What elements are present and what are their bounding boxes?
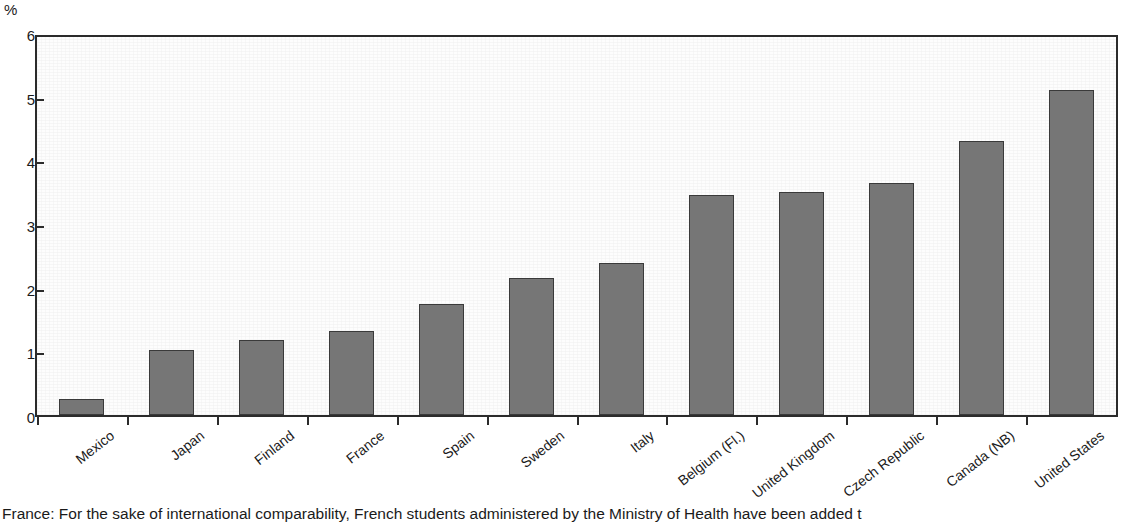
y-tick-mark-1 [35,353,44,355]
x-axis-label-spain: Spain [440,428,477,462]
y-tick-label-5: 5 [9,92,35,107]
y-tick-mark-5 [35,99,44,101]
x-axis-label-belgium-fl: Belgium (Fl.) [675,428,747,489]
x-axis-category-labels: MexicoJapanFinlandFranceSpainSwedenItaly… [0,424,1137,496]
bar-sweden [509,278,554,415]
y-tick-label-3: 3 [9,219,35,234]
x-axis-label-czech-republic: Czech Republic [840,428,927,500]
bar-belgium-fl [689,195,734,416]
x-axis-label-mexico: Mexico [73,428,117,467]
y-tick-mark-4 [35,162,44,164]
y-tick-label-2: 2 [9,283,35,298]
y-tick-label-0: 0 [9,410,35,425]
x-axis-label-finland: Finland [252,428,297,468]
x-axis-label-sweden: Sweden [518,428,567,471]
x-axis-label-united-states: United States [1031,428,1106,492]
bar-united-kingdom [779,192,824,415]
x-axis-label-japan: Japan [168,428,207,463]
bar-czech-republic [869,183,914,415]
chart-footnote: France: For the sake of international co… [2,504,1137,523]
bar-france [329,331,374,415]
bar-mexico [59,399,104,415]
bar-japan [149,350,194,415]
y-tick-mark-2 [35,290,44,292]
y-axis: 6543210 [0,35,35,417]
x-axis-label-canada-nb: Canada (NB) [943,428,1017,490]
bar-italy [599,263,644,415]
bar-united-states [1049,90,1094,415]
x-axis-label-france: France [344,428,388,467]
bar-finland [239,340,284,415]
bar-series-container [37,37,1116,415]
x-axis-label-italy: Italy [628,428,657,456]
y-axis-unit-label: % [4,2,17,17]
y-tick-label-1: 1 [9,346,35,361]
bar-spain [419,304,464,415]
bar-canada-nb [959,141,1004,415]
y-tick-label-6: 6 [9,28,35,43]
y-tick-label-4: 4 [9,155,35,170]
x-axis-label-united-kingdom: United Kingdom [749,428,837,501]
y-tick-mark-3 [35,226,44,228]
